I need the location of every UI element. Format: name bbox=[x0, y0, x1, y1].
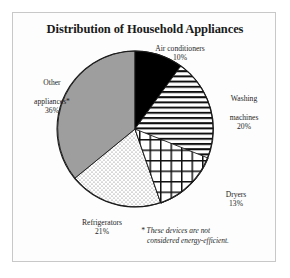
pie-label-washing-machines: Washing machines 20% bbox=[213, 85, 275, 140]
chart-footnote-line1: * These devices are not bbox=[141, 226, 269, 236]
figure-frame: Distribution of Household Appliances bbox=[12, 12, 276, 262]
pie-label-refrigerators-value: 21% bbox=[63, 227, 141, 236]
pie-label-refrigerators-name: Refrigerators bbox=[82, 218, 122, 227]
pie-label-other-appliances-name1: Other bbox=[43, 78, 60, 87]
pie-label-washing-machines-name1: Washing bbox=[231, 94, 257, 103]
chart-footnote: * These devices are not considered energ… bbox=[141, 226, 269, 246]
pie-label-washing-machines-name2: machines bbox=[230, 113, 259, 122]
pie-label-air-conditioners: Air conditioners 10% bbox=[137, 35, 223, 72]
pie-label-dryers-value: 13% bbox=[209, 199, 263, 208]
pie-label-air-conditioners-name: Air conditioners bbox=[155, 44, 205, 53]
pie-label-air-conditioners-value: 10% bbox=[137, 53, 223, 62]
chart-footnote-line2: considered energy-efficient. bbox=[141, 236, 269, 246]
pie-label-dryers-name: Dryers bbox=[226, 190, 247, 199]
pie-label-other-appliances: Other appliances* 36% bbox=[17, 69, 87, 124]
pie-label-washing-machines-value: 20% bbox=[213, 122, 275, 131]
pie-label-refrigerators: Refrigerators 21% bbox=[63, 209, 141, 246]
pie-label-other-appliances-name2: appliances* bbox=[34, 97, 70, 106]
pie-label-other-appliances-value: 36% bbox=[17, 106, 87, 115]
pie-label-dryers: Dryers 13% bbox=[209, 181, 263, 218]
